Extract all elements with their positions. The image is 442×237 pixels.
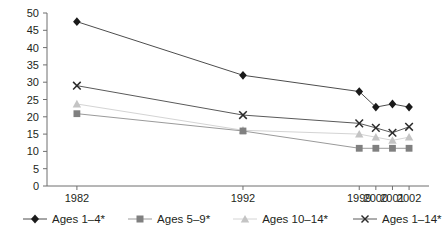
data-point-square [240, 128, 247, 135]
data-point-diamond [239, 71, 247, 80]
data-point-square [389, 145, 396, 152]
triangle-marker-icon [232, 213, 258, 225]
legend-label-ages-1-14: Ages 1–14* [382, 213, 441, 225]
diamond-marker-icon [22, 213, 48, 225]
y-tick-label: 30 [27, 76, 39, 88]
data-point-diamond [405, 103, 413, 112]
y-tick-label: 10 [27, 145, 39, 157]
legend-label-ages-5-9: Ages 5–9* [157, 213, 210, 225]
chart-legend: Ages 1–4* Ages 5–9* Ages 10–14* Ages 1–1… [0, 206, 436, 232]
legend-item-ages-10-14[interactable]: Ages 10–14* [232, 213, 328, 225]
data-point-x [372, 124, 380, 132]
series-2 [73, 100, 414, 144]
plot-area: 0510152025303540455019821992199920002001… [0, 0, 436, 206]
legend-label-ages-10-14: Ages 10–14* [262, 213, 328, 225]
square-marker-icon [127, 213, 153, 225]
series-0 [73, 17, 413, 111]
data-point-diamond [389, 100, 397, 109]
y-tick-label: 5 [33, 163, 39, 175]
x-tick-label: 1982 [65, 192, 89, 204]
y-tick-label: 40 [27, 42, 39, 54]
data-point-square [406, 145, 413, 152]
legend-label-ages-1-4: Ages 1–4* [52, 213, 105, 225]
data-point-square [356, 145, 363, 152]
data-point-square [372, 145, 379, 152]
y-tick-label: 50 [27, 7, 39, 19]
legend-item-ages-1-4[interactable]: Ages 1–4* [22, 213, 105, 225]
data-point-triangle [405, 133, 413, 141]
legend-item-ages-1-14[interactable]: Ages 1–14* [352, 213, 441, 225]
y-tick-label: 45 [27, 24, 39, 36]
data-point-x [389, 129, 397, 137]
data-point-diamond [73, 17, 81, 26]
y-tick-label: 25 [27, 94, 39, 106]
data-point-triangle [73, 100, 81, 108]
data-point-x [405, 123, 413, 131]
y-tick-label: 35 [27, 59, 39, 71]
x-tick-label: 1992 [231, 192, 255, 204]
y-tick-label: 0 [33, 180, 39, 192]
y-tick-label: 15 [27, 128, 39, 140]
y-tick-label: 20 [27, 111, 39, 123]
x-tick-label: 2002 [397, 192, 421, 204]
x-marker-icon [352, 213, 378, 225]
series-1 [73, 110, 412, 151]
data-point-square [73, 110, 80, 117]
legend-item-ages-5-9[interactable]: Ages 5–9* [127, 213, 210, 225]
